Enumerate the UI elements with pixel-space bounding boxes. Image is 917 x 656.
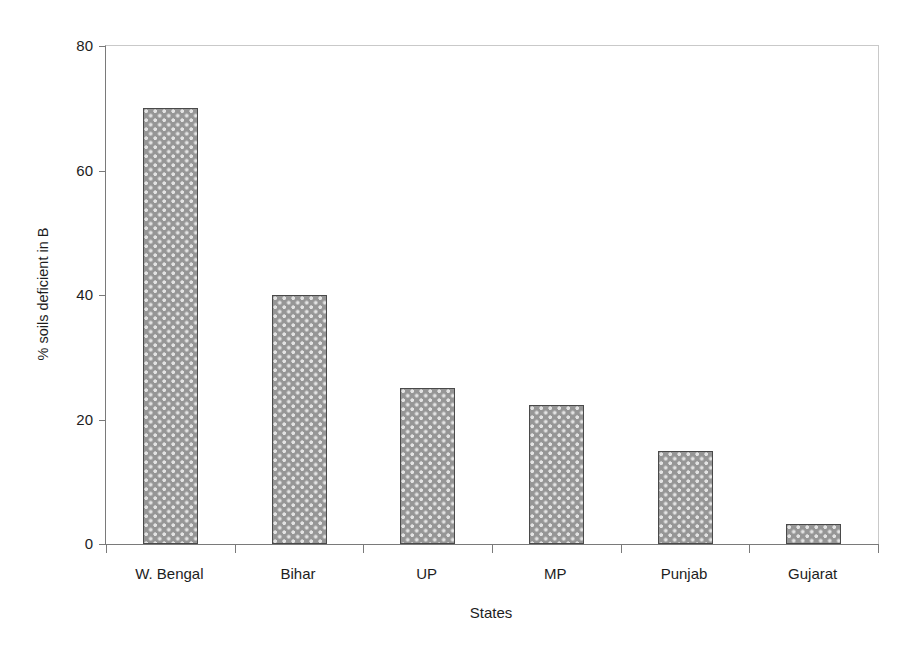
x-axis-tick [106, 544, 107, 553]
y-axis-tick-label: 60 [76, 161, 93, 178]
plot-area [105, 45, 879, 545]
bar [529, 405, 584, 544]
bar [272, 295, 327, 544]
x-axis-category-label: UP [416, 565, 437, 582]
bar [400, 388, 455, 544]
x-axis-tick [749, 544, 750, 553]
bar [786, 524, 841, 544]
x-axis-tick [363, 544, 364, 553]
x-axis-tick [235, 544, 236, 553]
y-axis-tick [99, 544, 106, 545]
y-axis-tick [99, 171, 106, 172]
y-axis-tick-label: 80 [76, 37, 93, 54]
x-axis-title: States [105, 604, 877, 621]
bar [658, 451, 713, 544]
x-axis-category-label: Bihar [280, 565, 315, 582]
bars-layer [106, 46, 878, 544]
chart-figure: % soils deficient in B 806040200 W. Beng… [0, 0, 917, 656]
y-axis-tick-label: 20 [76, 410, 93, 427]
x-axis-category-label: Gujarat [788, 565, 837, 582]
y-axis-title: % soils deficient in B [32, 45, 54, 543]
x-axis-category-label: W. Bengal [135, 565, 203, 582]
y-axis-tick [99, 46, 106, 47]
x-axis-category-label: Punjab [661, 565, 708, 582]
y-axis-tick-label: 40 [76, 286, 93, 303]
y-axis-tick-label: 0 [85, 535, 93, 552]
bar [143, 108, 198, 544]
x-axis-category-label: MP [544, 565, 567, 582]
x-axis-tick [492, 544, 493, 553]
y-axis-tick [99, 295, 106, 296]
x-axis-tick [621, 544, 622, 553]
y-axis-tick [99, 420, 106, 421]
x-axis-tick [878, 544, 879, 553]
